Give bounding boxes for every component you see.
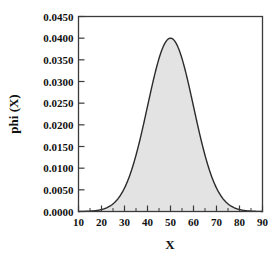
x-tick-label: 10 xyxy=(73,216,85,228)
x-axis-tick-labels: 102030405060708090 xyxy=(73,216,269,228)
x-tick-label: 20 xyxy=(96,216,108,228)
x-tick-label: 60 xyxy=(188,216,200,228)
y-tick-label: 0.0150 xyxy=(43,141,74,153)
x-tick-label: 50 xyxy=(165,216,177,228)
y-tick-label: 0.0000 xyxy=(43,206,74,218)
y-tick-label: 0.0250 xyxy=(43,97,74,109)
x-tick-label: 70 xyxy=(211,216,223,228)
y-tick-label: 0.0200 xyxy=(43,119,74,131)
y-tick-label: 0.0400 xyxy=(43,32,74,44)
x-tick-label: 40 xyxy=(142,216,154,228)
y-tick-label: 0.0450 xyxy=(43,11,74,23)
y-tick-label: 0.0100 xyxy=(43,162,74,174)
distribution-plot: 102030405060708090 0.00000.00500.01000.0… xyxy=(0,0,275,258)
x-axis-title: X xyxy=(165,237,175,252)
y-tick-label: 0.0300 xyxy=(43,76,74,88)
x-tick-label: 30 xyxy=(119,216,131,228)
y-tick-label: 0.0350 xyxy=(43,54,74,66)
y-tick-label: 0.0050 xyxy=(43,184,74,196)
y-axis-title: phi (X) xyxy=(6,94,21,133)
x-tick-label: 90 xyxy=(257,216,269,228)
chart-figure: 102030405060708090 0.00000.00500.01000.0… xyxy=(0,0,275,258)
x-tick-label: 80 xyxy=(234,216,246,228)
